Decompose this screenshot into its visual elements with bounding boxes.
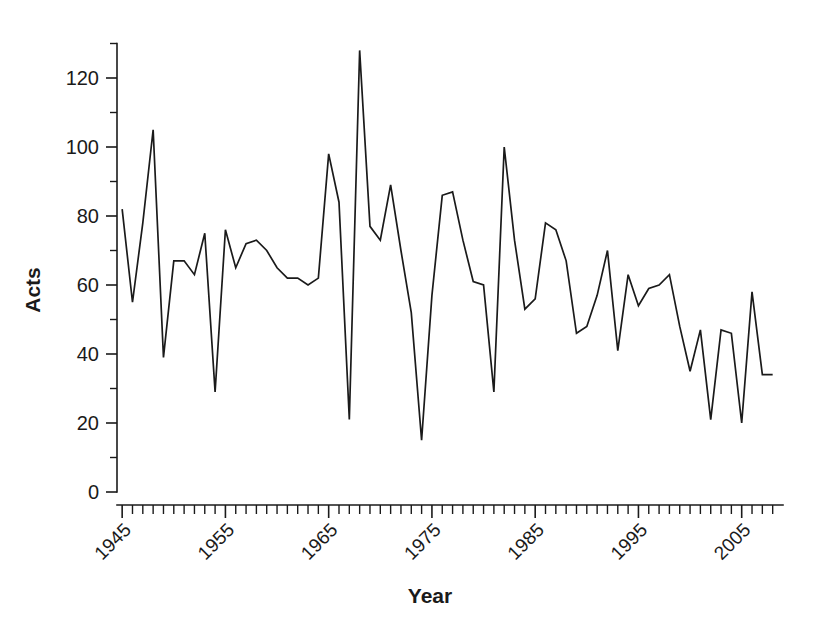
- x-tick-label: 1965: [297, 519, 342, 564]
- y-tick-label: 120: [66, 67, 99, 89]
- x-tick-label: 1945: [90, 519, 135, 564]
- y-tick-label: 100: [66, 136, 99, 158]
- y-tick-label: 60: [77, 274, 99, 296]
- x-tick-label: 1995: [607, 519, 652, 564]
- x-axis-title: Year: [408, 584, 452, 607]
- x-tick-label: 1975: [400, 519, 445, 564]
- x-tick-label: 1955: [194, 519, 239, 564]
- y-tick-label: 80: [77, 205, 99, 227]
- y-axis-title: Acts: [21, 267, 44, 313]
- x-tick-label: 2005: [710, 519, 755, 564]
- y-axis: 020406080100120: [66, 44, 117, 504]
- data-series-acts: [122, 50, 773, 440]
- x-tick-label: 1985: [503, 519, 548, 564]
- line-chart: 020406080100120 194519551965197519851995…: [0, 0, 831, 631]
- y-tick-label: 40: [77, 343, 99, 365]
- x-axis: 1945195519651975198519952005: [90, 505, 783, 564]
- chart-figure: 020406080100120 194519551965197519851995…: [0, 0, 831, 631]
- y-tick-label: 20: [77, 412, 99, 434]
- y-tick-label: 0: [88, 481, 99, 503]
- series-path: [122, 50, 773, 440]
